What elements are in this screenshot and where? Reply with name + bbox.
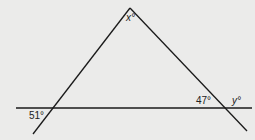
right-exterior-angle-label: y° (231, 95, 241, 106)
left-side-line (33, 8, 130, 134)
apex-angle-label: x° (125, 12, 135, 23)
diagram-canvas: x° 51° 47° y° (0, 0, 255, 140)
right-interior-angle-label: 47° (196, 95, 211, 106)
left-angle-label: 51° (29, 110, 44, 121)
right-side-line (130, 8, 247, 131)
triangle-diagram: x° 51° 47° y° (0, 0, 255, 140)
